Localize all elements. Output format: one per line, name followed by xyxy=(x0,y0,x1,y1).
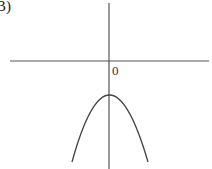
parabola-curve xyxy=(72,95,148,162)
origin-label: 0 xyxy=(112,63,119,79)
graph-canvas xyxy=(0,0,212,169)
